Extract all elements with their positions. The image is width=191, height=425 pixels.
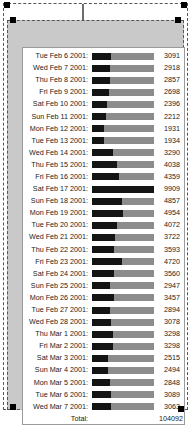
chart-row-bar-track (92, 234, 154, 241)
chart-row: Wed Feb 28 2001:3078 (23, 316, 184, 328)
chart-row-bar-track (92, 210, 154, 217)
chart-row-label: Fri Mar 2 2001: (25, 340, 88, 352)
chart-row-bar-track (92, 89, 154, 96)
chart-row-label: Tue Mar 6 2001: (25, 389, 88, 401)
chart-row-bar-fill (92, 113, 106, 120)
chart-row: Thu Feb 8 2001:2857 (23, 74, 184, 86)
chart-row-bar-track (92, 186, 154, 193)
chart-row-bar-fill (92, 294, 114, 301)
selection-handle-middle-left[interactable] (10, 17, 16, 23)
chart-row-value: 4954 (159, 207, 180, 219)
chart-row-bar-fill (92, 367, 108, 374)
chart-row-value: 2918 (159, 62, 180, 74)
chart-row-bar-track (92, 125, 154, 132)
chart-row: Wed Feb 14 2001:3290 (23, 147, 184, 159)
chart-row-bar-track (92, 270, 154, 277)
chart-row: Tue Feb 20 2001:4072 (23, 219, 184, 231)
chart-row-bar-fill (92, 234, 115, 241)
chart-row-bar-fill (92, 77, 110, 84)
chart-row-value: 3560 (159, 268, 180, 280)
chart-row: Sat Feb 17 2001:9909 (23, 183, 184, 195)
chart-row-value: 3290 (159, 147, 180, 159)
chart-row-value: 3091 (159, 50, 180, 62)
chart-row-label: Mon Feb 26 2001: (25, 292, 88, 304)
chart-row-bar-fill (92, 65, 110, 72)
chart-row-bar-track (92, 331, 154, 338)
chart-row: Sun Feb 11 2001:2212 (23, 110, 184, 122)
chart-row-bar-track (92, 355, 154, 362)
chart-row-bar-track (92, 161, 154, 168)
chart-row-value: 2515 (159, 352, 180, 364)
chart-row-bar-track (92, 294, 154, 301)
chart-row-bar-track (92, 137, 154, 144)
chart-row-bar-fill (92, 246, 114, 253)
chart-row-label: Fri Feb 9 2001: (25, 86, 88, 98)
chart-row-bar-fill (92, 355, 108, 362)
chart-row: Fri Feb 23 2001:4720 (23, 256, 184, 268)
chart-row-label: Tue Feb 27 2001: (25, 304, 88, 316)
chart-row-label: Sun Feb 25 2001: (25, 280, 88, 292)
chart-row-bar-track (92, 65, 154, 72)
chart-row: Sun Feb 25 2001:2947 (23, 280, 184, 292)
chart-row-label: Wed Feb 28 2001: (25, 316, 88, 328)
bar-gauge-chart: Tue Feb 6 2001:3091Wed Feb 7 2001:2918Th… (22, 47, 185, 425)
chart-row-label: Sun Mar 4 2001: (25, 364, 88, 376)
chart-row-value: 9909 (159, 183, 180, 195)
chart-row: Mon Mar 5 2001:2848 (23, 377, 184, 389)
chart-row-value: 3298 (159, 340, 180, 352)
chart-row-bar-fill (92, 403, 111, 410)
chart-row-bar-track (92, 319, 154, 326)
chart-row-label: Sun Feb 11 2001: (25, 111, 88, 123)
chart-row-value: 2848 (159, 377, 180, 389)
chart-total-value: 104092 (159, 413, 183, 425)
chart-row-bar-fill (92, 89, 109, 96)
chart-row-bar-track (92, 403, 154, 410)
chart-row: Tue Feb 27 2001:2894 (23, 304, 184, 316)
chart-row-label: Sat Feb 10 2001: (25, 98, 88, 110)
selection-handle-top-right[interactable] (181, 2, 187, 8)
selection-handle-bottom-right[interactable] (178, 406, 184, 412)
chart-row-value: 3298 (159, 328, 180, 340)
chart-row-label: Mon Mar 5 2001: (25, 377, 88, 389)
chart-row-label: Mon Feb 19 2001: (25, 207, 88, 219)
chart-total-bar-placeholder (92, 415, 154, 422)
chart-row-value: 2494 (159, 364, 180, 376)
chart-row-bar-fill (92, 198, 122, 205)
chart-row-value: 3457 (159, 292, 180, 304)
selection-handle-middle-right[interactable] (175, 17, 181, 23)
chart-row-label: Fri Feb 23 2001: (25, 256, 88, 268)
chart-row-bar-track (92, 391, 154, 398)
chart-row-bar-fill (92, 282, 110, 289)
chart-row-bar-track (92, 222, 154, 229)
chart-row-label: Wed Feb 21 2001: (25, 231, 88, 243)
chart-row: Fri Feb 16 2001:4359 (23, 171, 184, 183)
chart-row: Tue Mar 6 2001:3089 (23, 389, 184, 401)
chart-row: Wed Feb 21 2001:3722 (23, 231, 184, 243)
chart-row-value: 1931 (159, 123, 180, 135)
chart-row-label: Sat Feb 17 2001: (25, 183, 88, 195)
chart-total-row: Total:104092 (23, 413, 184, 425)
chart-row-label: Sun Feb 18 2001: (25, 195, 88, 207)
chart-row-value: 3063 (159, 401, 180, 413)
chart-row-bar-track (92, 367, 154, 374)
chart-row-value: 3078 (159, 316, 180, 328)
chart-row-value: 4359 (159, 171, 180, 183)
chart-row-bar-fill (92, 137, 104, 144)
chart-row-bar-track (92, 343, 154, 350)
chart-row-bar-track (92, 173, 154, 180)
chart-row-bar-track (92, 246, 154, 253)
chart-row-bar-fill (92, 210, 123, 217)
chart-row: Sun Feb 18 2001:4857 (23, 195, 184, 207)
chart-row-bar-track (92, 101, 154, 108)
selection-handle-bottom-left[interactable] (10, 404, 16, 410)
chart-row-value: 2947 (159, 280, 180, 292)
chart-row-label: Tue Feb 13 2001: (25, 135, 88, 147)
selected-chart-object[interactable]: Tue Feb 6 2001:3091Wed Feb 7 2001:2918Th… (7, 20, 184, 410)
selection-handle-top-left[interactable] (4, 2, 10, 8)
chart-row-list: Tue Feb 6 2001:3091Wed Feb 7 2001:2918Th… (23, 48, 184, 425)
chart-row-bar-track (92, 113, 154, 120)
chart-row-bar-track (92, 77, 154, 84)
chart-row-bar-fill (92, 149, 113, 156)
chart-row: Mon Feb 26 2001:3457 (23, 292, 184, 304)
